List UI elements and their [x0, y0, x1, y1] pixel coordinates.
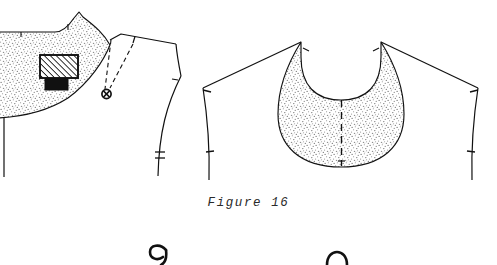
notch-mark	[203, 90, 211, 92]
left-armhole-curve	[203, 88, 209, 180]
notch-mark	[373, 48, 379, 51]
notch-mark	[467, 151, 475, 152]
partial-curve-hook	[150, 246, 166, 259]
notch-mark	[470, 90, 478, 92]
left-bodice-yoke	[0, 12, 181, 177]
guide-line-b	[110, 44, 133, 88]
right-circular-yoke	[203, 42, 478, 180]
notch-mark	[303, 48, 309, 51]
partial-curve-arch	[327, 252, 347, 265]
notch-mark	[133, 37, 135, 44]
hatched-patch	[40, 55, 78, 78]
notch-mark	[172, 79, 178, 80]
side-seam-curve	[158, 76, 181, 176]
shoulder-seam-line	[110, 34, 176, 44]
bottom-partial-left	[150, 246, 166, 265]
armhole-curve	[176, 44, 181, 76]
figure-page: Figure 16	[0, 0, 497, 265]
right-armhole-curve	[472, 88, 478, 180]
figure-caption: Figure 16	[0, 196, 497, 210]
button-marker	[102, 89, 111, 98]
bottom-partial-right	[327, 252, 347, 265]
notch-mark	[206, 151, 214, 152]
pattern-illustration	[0, 0, 497, 265]
